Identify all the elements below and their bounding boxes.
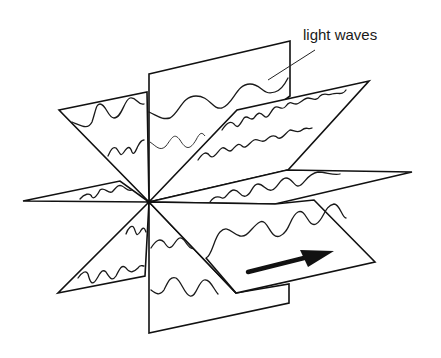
diagonal-plane-lower-left	[58, 202, 149, 293]
intersection-point	[147, 200, 152, 205]
polarization-planes-figure	[0, 0, 441, 358]
diagram-canvas: light waves	[0, 0, 441, 358]
light-waves-label: light waves	[303, 26, 377, 43]
